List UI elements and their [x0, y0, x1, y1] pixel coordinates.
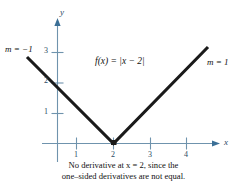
y-tick-label-3: 3 [44, 47, 48, 55]
vertex-point [111, 140, 117, 145]
y-tick-label-2: 2 [44, 77, 48, 85]
right-slope-label: m = 1 [207, 58, 229, 67]
x-tick-label-3: 3 [148, 151, 152, 159]
left-slope-label: m = −1 [5, 45, 33, 54]
y-axis-label: y [60, 8, 64, 17]
x-axis-label: x [224, 138, 228, 147]
figure-caption: No derivative at x = 2, since the one–si… [0, 160, 247, 181]
caption-line-2: one–sided derivatives are not equal. [0, 171, 247, 182]
figure-container: y x 3 2 1 1 2 3 4 m = −1 f(x) = |x − 2| … [0, 0, 247, 187]
x-tick-label-2: 2 [111, 151, 115, 159]
x-axis [42, 140, 220, 146]
function-equation-label: f(x) = |x − 2| [95, 57, 145, 67]
caption-line-1: No derivative at x = 2, since the [0, 160, 247, 171]
y-tick-label-1: 1 [44, 108, 48, 116]
graph-canvas [0, 0, 247, 187]
x-tick-label-1: 1 [74, 151, 78, 159]
x-tick-label-4: 4 [184, 151, 188, 159]
